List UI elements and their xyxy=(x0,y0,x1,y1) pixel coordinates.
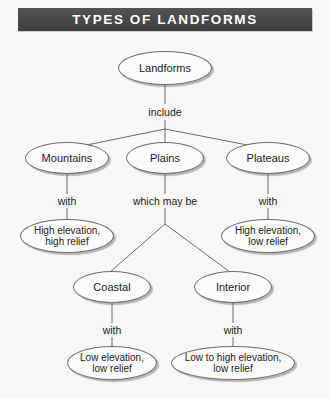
node-coastal[interactable]: Coastal xyxy=(73,271,151,303)
diagram-page: TYPES OF LANDFORMS xyxy=(0,0,330,398)
edge-label-include: include xyxy=(148,106,181,118)
node-high-elevation-high-relief-label: High elevation, high relief xyxy=(28,225,106,247)
edge-label-plains-which-may-be: which may be xyxy=(133,195,197,207)
node-interior[interactable]: Interior xyxy=(194,271,272,303)
node-landforms[interactable]: Landforms xyxy=(118,51,212,85)
edge-label-interior-with: with xyxy=(224,324,243,336)
node-high-elevation-high-relief[interactable]: High elevation, high relief xyxy=(20,219,114,253)
node-high-elevation-low-relief-label: High elevation, low relief xyxy=(229,225,307,247)
node-landforms-label: Landforms xyxy=(133,62,197,74)
node-mountains-label: Mountains xyxy=(36,152,99,164)
node-low-to-high-elevation-low-relief-label: Low to high elevation, low relief xyxy=(179,352,288,374)
edge-label-plateaus-with: with xyxy=(259,195,278,207)
node-mountains[interactable]: Mountains xyxy=(25,142,109,174)
edge-label-mountains-with: with xyxy=(58,195,77,207)
edge-junction-to-coastal xyxy=(110,224,165,272)
node-low-elevation-low-relief-label: Low elevation, low relief xyxy=(74,352,150,374)
node-low-to-high-elevation-low-relief[interactable]: Low to high elevation, low relief xyxy=(171,346,295,380)
node-high-elevation-low-relief[interactable]: High elevation, low relief xyxy=(221,219,315,253)
node-coastal-label: Coastal xyxy=(87,281,136,293)
node-plains-label: Plains xyxy=(144,152,186,164)
node-interior-label: Interior xyxy=(210,281,256,293)
edge-label-coastal-with: with xyxy=(103,324,122,336)
node-low-elevation-low-relief[interactable]: Low elevation, low relief xyxy=(67,346,157,380)
edge-junction-to-interior xyxy=(165,224,230,272)
node-plateaus-label: Plateaus xyxy=(241,152,296,164)
node-plains[interactable]: Plains xyxy=(126,142,204,174)
node-plateaus[interactable]: Plateaus xyxy=(226,142,310,174)
